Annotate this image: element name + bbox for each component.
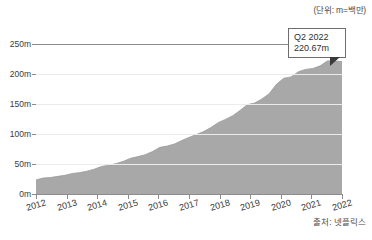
callout-pointer-icon <box>330 57 340 66</box>
x-tick-label-2020: 2020 <box>270 197 292 212</box>
unit-note: (단위: m=백만) <box>314 3 366 15</box>
gridline-50m <box>36 164 342 165</box>
plot-area <box>36 44 342 194</box>
gridline-200m <box>36 74 342 75</box>
x-tick-mark-2022 <box>342 194 343 199</box>
x-tick-label-2017: 2017 <box>178 197 200 212</box>
gridline-100m <box>36 134 342 135</box>
y-tick-mark <box>32 104 36 105</box>
callout-value-label: 220.67m <box>294 43 341 54</box>
source-note: 출처: 넷플릭스 <box>313 215 366 227</box>
x-tick-mark-2016 <box>158 194 159 199</box>
y-tick-label-150m: 150m <box>0 99 31 109</box>
x-tick-label-2014: 2014 <box>86 197 108 212</box>
netflix-subscribers-area-chart: (단위: m=백만) 0m50m100m150m200m250m 2012201… <box>0 0 372 240</box>
x-tick-label-2012: 2012 <box>25 197 47 212</box>
gridline-150m <box>36 104 342 105</box>
x-tick-mark-2017 <box>189 194 190 199</box>
y-tick-label-0m: 0m <box>0 189 31 199</box>
x-tick-label-2019: 2019 <box>239 197 261 212</box>
x-tick-mark-2020 <box>281 194 282 199</box>
y-tick-mark <box>32 134 36 135</box>
x-tick-mark-2012 <box>36 194 37 199</box>
x-tick-mark-2019 <box>250 194 251 199</box>
x-tick-mark-2015 <box>128 194 129 199</box>
x-tick-mark-2021 <box>311 194 312 199</box>
x-tick-label-2021: 2021 <box>300 197 322 212</box>
x-tick-label-2013: 2013 <box>56 197 78 212</box>
y-tick-mark <box>32 74 36 75</box>
x-tick-mark-2013 <box>67 194 68 199</box>
y-tick-mark <box>32 164 36 165</box>
x-tick-mark-2018 <box>220 194 221 199</box>
x-tick-label-2018: 2018 <box>209 197 231 212</box>
x-tick-label-2016: 2016 <box>147 197 169 212</box>
x-tick-mark-2014 <box>97 194 98 199</box>
y-tick-mark <box>32 44 36 45</box>
area-series-netflix-subscribers <box>36 44 342 194</box>
y-tick-label-250m: 250m <box>0 39 31 49</box>
x-tick-label-2015: 2015 <box>117 197 139 212</box>
y-tick-label-50m: 50m <box>0 159 31 169</box>
y-tick-label-100m: 100m <box>0 129 31 139</box>
callout-period-label: Q2 2022 <box>294 32 341 43</box>
callout-box-q2-2022: Q2 2022 220.67m <box>288 28 346 58</box>
x-tick-label-2022: 2022 <box>331 197 353 212</box>
y-tick-label-200m: 200m <box>0 69 31 79</box>
